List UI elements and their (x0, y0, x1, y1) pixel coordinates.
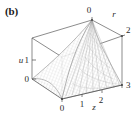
tick-label-z-3: 3 (126, 80, 131, 90)
tick-label-z-1: 1 (80, 99, 85, 109)
tick-label-r-2: 2 (126, 25, 131, 35)
tick-label-z-0: 0 (60, 103, 65, 113)
tick-label-r-0: 0 (87, 5, 92, 15)
axis-label-z: z (91, 102, 96, 112)
axis-label-r: r (112, 9, 116, 19)
figure-panel: (b) (0, 0, 131, 114)
surface-plot: 0 r 2 u 1 0 0 1 2 3 z (0, 0, 131, 114)
tick-label-z-2: 2 (99, 95, 104, 105)
tick-label-u-1: 1 (25, 55, 30, 65)
axis-label-u: u (19, 55, 24, 65)
r-axis-ticks (92, 17, 125, 36)
tick-label-u-0: 0 (25, 74, 30, 84)
